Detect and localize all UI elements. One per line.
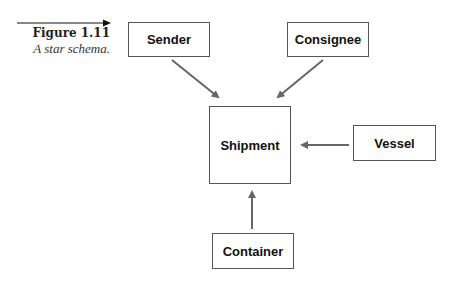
- entity-shipment: Shipment: [209, 106, 291, 184]
- entity-vessel: Vessel: [353, 125, 436, 161]
- arrow-sender-to-shipment: [172, 60, 218, 97]
- entity-container: Container: [212, 233, 294, 269]
- entity-consignee: Consignee: [287, 22, 369, 57]
- entity-sender: Sender: [128, 22, 210, 57]
- arrow-consignee-to-shipment: [278, 60, 323, 97]
